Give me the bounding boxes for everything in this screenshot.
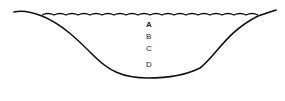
- lake-cross-section: [0, 0, 285, 101]
- depth-label-d: D: [146, 61, 152, 69]
- depth-label-c: C: [146, 45, 152, 53]
- water-surface-waves: [42, 14, 258, 16]
- basin-outline: [14, 10, 276, 78]
- depth-label-a: A: [146, 21, 152, 29]
- depth-label-b: B: [146, 33, 151, 41]
